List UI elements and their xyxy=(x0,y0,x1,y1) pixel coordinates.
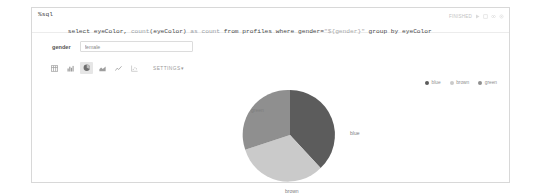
pie-chart-svg[interactable] xyxy=(230,85,350,185)
status-badge: FINISHED xyxy=(449,14,472,19)
legend-swatch-blue xyxy=(425,81,429,85)
dynamic-form-row: gender xyxy=(32,34,509,59)
sql-code-editor[interactable]: %sql select eyeColor, count(eyeColor) as… xyxy=(32,8,509,33)
book-icon[interactable] xyxy=(483,14,488,19)
area-chart-icon[interactable] xyxy=(96,62,109,74)
eye-icon[interactable] xyxy=(491,14,496,19)
scatter-chart-icon[interactable] xyxy=(128,62,141,74)
gender-input[interactable] xyxy=(80,41,193,52)
table-icon[interactable] xyxy=(48,62,61,74)
pie-label-green: green xyxy=(251,107,264,113)
pie-label-blue: blue xyxy=(350,130,359,136)
pie-chart-icon[interactable] xyxy=(80,62,93,74)
visualization-toolbar: SETTINGS▾ xyxy=(32,59,509,77)
settings-toggle[interactable]: SETTINGS▾ xyxy=(153,66,184,71)
notebook-paragraph: %sql select eyeColor, count(eyeColor) as… xyxy=(31,7,510,183)
chart-area: blue brown green xyxy=(32,77,509,182)
legend-swatch-green xyxy=(478,81,482,85)
paragraph-status-bar: FINISHED xyxy=(449,14,504,19)
screenshot-root: %sql select eyeColor, count(eyeColor) as… xyxy=(0,0,542,196)
line-chart-icon[interactable] xyxy=(112,62,125,74)
legend-swatch-brown xyxy=(450,81,454,85)
pie-chart: green blue brown xyxy=(32,85,509,182)
pie-label-brown: brown xyxy=(285,188,299,194)
run-icon[interactable] xyxy=(475,14,480,19)
gear-icon[interactable] xyxy=(499,14,504,19)
gender-field-label: gender xyxy=(52,44,71,50)
settings-label: SETTINGS xyxy=(153,66,181,71)
bar-chart-icon[interactable] xyxy=(64,62,77,74)
interpreter-line: %sql xyxy=(38,11,503,20)
chevron-down-icon: ▾ xyxy=(181,66,184,71)
